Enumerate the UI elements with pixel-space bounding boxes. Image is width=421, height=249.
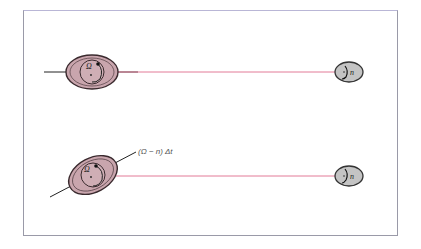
bottom-moon-n-label: n [350,172,354,181]
top-planet-omega-label: Ω [86,62,92,71]
top-moon [335,62,363,82]
top-panel: Ω n [44,55,363,89]
bottom-rotation-arrowhead-icon [94,164,98,168]
bottom-planet-center-dot [90,176,92,178]
top-moon-n-label: n [350,68,354,77]
bottom-moon [335,166,363,186]
bottom-moon-center-dot [343,175,345,177]
bottom-planet-omega-label: Ω [84,165,90,174]
lag-angle-annotation: (Ω − n) Δt [138,147,173,156]
top-planet-center-dot [90,74,92,76]
top-rotation-arrowhead-icon [96,62,100,66]
diagram-canvas: Ω n Ω (Ω − n) Δt n [0,0,421,249]
top-planet-body [80,60,104,84]
bottom-panel: Ω (Ω − n) Δt n [50,147,363,202]
top-moon-center-dot [343,71,345,73]
